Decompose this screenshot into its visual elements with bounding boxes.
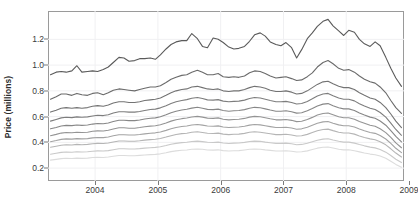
- x-tick-label: 2004: [86, 185, 105, 195]
- series-line-q90: [51, 19, 402, 86]
- series-line-q60: [51, 93, 402, 135]
- y-tick-label: 1.0: [32, 60, 44, 70]
- x-axis-tick-labels: 200420052006200720082009: [48, 181, 404, 211]
- y-tick-label: 0.6: [32, 112, 44, 122]
- series-line-q50: [51, 104, 402, 142]
- y-tick-label: 0.4: [32, 137, 44, 147]
- y-tick-label: 0.8: [32, 86, 44, 96]
- y-tick-label: 0.2: [32, 163, 44, 173]
- plot-lines: [48, 11, 404, 181]
- plot-area: [48, 11, 404, 181]
- x-tick-label: 2008: [337, 185, 356, 195]
- series-line-q80: [51, 61, 402, 114]
- y-axis-tick-labels: 0.20.40.60.81.01.2: [16, 11, 44, 181]
- y-tick-label: 1.2: [32, 34, 44, 44]
- x-tick-label: 2005: [148, 185, 167, 195]
- x-tick-label: 2006: [211, 185, 230, 195]
- series-line-q70: [51, 81, 402, 127]
- x-tick-label: 2007: [274, 185, 293, 195]
- series-line-q30: [51, 122, 402, 153]
- series-line-q05: [51, 147, 402, 167]
- x-tick-label: 2009: [400, 185, 418, 195]
